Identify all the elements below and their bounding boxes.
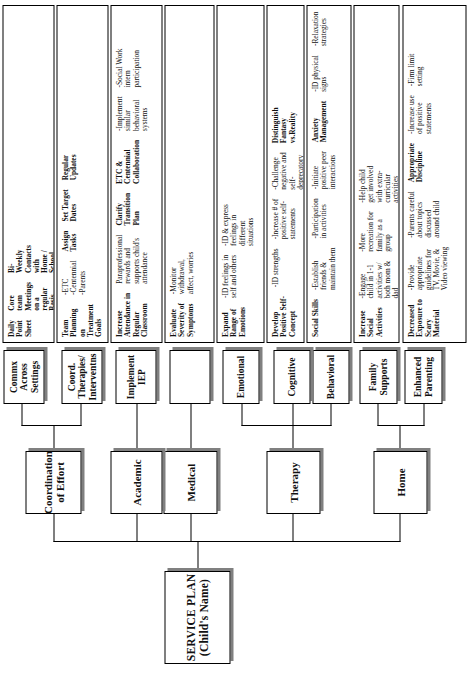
root-title-line2: (Child's Name) xyxy=(197,574,210,661)
leaf-heading-line: Discipline xyxy=(415,143,423,182)
tier2-node-coord-therapies-interventns[interactable]: Coord. Therapies/ Interventns xyxy=(61,350,102,404)
leaf-bullet-line: intern xyxy=(123,49,131,88)
leaf-block: Paraprofessionalrewards andsupports chil… xyxy=(115,235,148,284)
leaf-block: -Social Workinternparticipation xyxy=(115,49,140,88)
leaf-block: -Relaxationstrategies xyxy=(311,12,328,46)
leaf-panel-medical[interactable]: EvaluateSeverity ofSymptoms-Monitorwithd… xyxy=(164,5,214,343)
org-chart-canvas: SERVICE PLAN (Child's Name) Home Therapy… xyxy=(0,0,469,676)
connector-trunk-to-medical xyxy=(190,514,191,542)
connector-trunk-vertical xyxy=(53,541,400,542)
tier2-node-cognitive[interactable]: Cognitive xyxy=(273,350,310,404)
leaf-heading-line: Social Skills xyxy=(311,299,319,337)
leaf-heading-line: Attendance in xyxy=(123,293,131,337)
leaf-heading-line: Basis xyxy=(48,282,54,311)
connector-medical-out xyxy=(190,404,191,451)
leaf-panel-enhanced-parenting[interactable]: DecreasedExposure toScaryMaterial-Provid… xyxy=(402,5,466,343)
root-node-service-plan[interactable]: SERVICE PLAN (Child's Name) xyxy=(164,571,230,664)
tier2-label-coord-therapies-line3: Interventns xyxy=(87,354,98,401)
tier2-label-implement-iep-line2: IEP xyxy=(136,355,147,399)
leaf-block: DailyPointSheet xyxy=(7,320,32,337)
leaf-bullet-line: signs xyxy=(319,55,327,92)
leaf-heading-line: Sheet xyxy=(24,320,32,337)
leaf-block: Social Skills xyxy=(311,299,319,337)
tier2-label-family-supports-line1: Family xyxy=(367,359,378,396)
leaf-heading-line: Classroom xyxy=(140,293,148,337)
leaf-heading-line: Emotions xyxy=(238,307,246,337)
leaf-heading-line: Goals xyxy=(94,304,102,337)
connector-academic-out xyxy=(136,404,137,451)
leaf-panel-emotional[interactable]: ExpandRange ofEmotions-ID feelings insel… xyxy=(216,5,264,343)
leaf-bullet-line: Video viewing xyxy=(440,247,448,290)
tier2-label-cognitive: Cognitive xyxy=(286,357,297,396)
leaf-bullet-line: positive peer xyxy=(319,151,327,189)
tier1-node-academic[interactable]: Academic xyxy=(110,451,162,514)
leaf-panel-coord-therapies[interactable]: TeamPlanningonTreatmentGoals-ETC-Centenn… xyxy=(56,5,108,343)
tier1-label-academic: Academic xyxy=(130,459,142,505)
connector-therapy-split xyxy=(241,425,331,426)
leaf-bullet-line: self and others xyxy=(229,255,237,298)
leaf-bullet-line: group xyxy=(383,212,391,252)
leaf-block: IncreaseSocialActivities xyxy=(358,307,383,337)
leaf-panel-family-supports[interactable]: IncreaseSocialActivities-Engagechild in … xyxy=(353,5,399,343)
leaf-panel-commx[interactable]: DailyPointSheetCoreteamMeetingson aregul… xyxy=(2,5,54,343)
tier2-label-enhanced-parenting-line2: Parenting xyxy=(423,357,434,398)
connector-coordination-out xyxy=(53,425,54,451)
leaf-block: -Increase useof positivestatements xyxy=(407,95,432,134)
tier1-node-coordination-of-effort[interactable]: Coordination of Effort xyxy=(25,451,81,514)
leaf-block: -Engagechild in 1-1activities w/both mom… xyxy=(358,261,399,299)
connector-trunk-to-coordination xyxy=(53,514,54,542)
leaf-heading-line: Material xyxy=(432,299,440,337)
leaf-bullet-line: appropriate xyxy=(415,247,423,290)
leaf-block: CoreteamMeetingson aregularBasis xyxy=(7,282,54,311)
leaf-heading-line: Activities xyxy=(375,307,383,337)
tier1-label-medical: Medical xyxy=(184,464,196,502)
connector-coordination-to-coord-therapies xyxy=(80,404,81,426)
leaf-panel-academic[interactable]: IncreaseAttendance inRegularClassroomPar… xyxy=(110,5,162,343)
leaf-block: -Parents carefulabout topicsdiscussedaro… xyxy=(407,191,440,238)
tier1-node-home[interactable]: Home xyxy=(373,451,427,514)
leaf-bullet-line: similar xyxy=(123,96,131,130)
tier2-label-behavioral: Behavioral xyxy=(325,355,336,399)
leaf-block: AssignTasks xyxy=(61,231,78,252)
leaf-block: -ID & expressfeelings indifferentsituati… xyxy=(221,204,254,246)
leaf-heading-line: Transition xyxy=(123,193,131,226)
leaf-heading-line: Collaboration xyxy=(132,140,140,184)
tier2-node-commx-across-settings[interactable]: Commx Across Settings xyxy=(3,350,44,404)
leaf-block: -Increase # ofpositive self-statements xyxy=(271,199,296,240)
leaf-block: -Help childget involvedwith extra-curric… xyxy=(358,166,399,203)
leaf-bullet-line: strategies xyxy=(319,12,327,46)
leaf-bullet-line: in activities xyxy=(319,198,327,238)
tier2-label-commx-line2: Across xyxy=(18,361,29,393)
tier2-node-medical-empty[interactable] xyxy=(169,350,210,404)
leaf-bullet-line: positive self- xyxy=(279,199,287,240)
connector-trunk-to-therapy xyxy=(292,514,293,542)
tier1-label-coordination-line1: Coordination xyxy=(41,451,53,514)
leaf-panel-cognitive[interactable]: DevelopPositive Self-Concept-ID strength… xyxy=(266,5,304,343)
leaf-bullet-line: around child xyxy=(432,191,440,238)
leaf-bullet-line: statements xyxy=(288,199,296,240)
leaf-heading-line: Centennial xyxy=(123,140,131,184)
leaf-heading-line: vs.Reality xyxy=(288,107,296,143)
leaf-block: -Challengenegative andself-deprecatoryth… xyxy=(271,152,304,190)
leaf-bullet-line: interactions xyxy=(328,151,336,189)
tier1-node-medical[interactable]: Medical xyxy=(163,451,217,514)
tier2-node-enhanced-parenting[interactable]: Enhanced Parenting xyxy=(404,350,442,404)
leaf-bullet-line: statements xyxy=(424,95,432,134)
tier2-node-emotional[interactable]: Emotional xyxy=(222,350,259,404)
connector-coordination-split xyxy=(21,425,81,426)
leaf-block: AnxietyManagement xyxy=(311,101,328,142)
leaf-bullet-line: child in 1-1 xyxy=(366,261,374,299)
leaf-bullet-line: -ID strengths xyxy=(271,248,279,287)
leaf-block: -Initiatepositive peerinteractions xyxy=(311,151,336,189)
tier2-node-family-supports[interactable]: Family Supports xyxy=(359,350,397,404)
leaf-heading-line: Management xyxy=(319,101,327,142)
leaf-block: -Morerecreation forfamily as agroup xyxy=(358,212,391,252)
tier2-node-behavioral[interactable]: Behavioral xyxy=(312,350,349,404)
leaf-panel-behavioral[interactable]: Social Skills-Establishfriends &maintain… xyxy=(306,5,351,343)
leaf-heading-line: Plan xyxy=(132,193,140,226)
leaf-bullet-line: activities xyxy=(391,166,399,203)
tier2-label-commx-line3: Settings xyxy=(29,361,40,393)
tier2-node-implement-iep[interactable]: Implement IEP xyxy=(115,350,156,404)
tier1-node-therapy[interactable]: Therapy xyxy=(266,451,320,514)
tier2-label-enhanced-parenting-line1: Enhanced xyxy=(412,357,423,398)
